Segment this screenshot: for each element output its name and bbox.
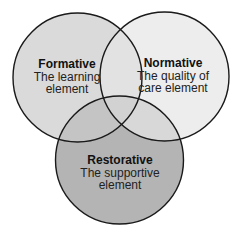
restorative-line2: element <box>99 178 142 192</box>
venn-diagram: Formative The learning element Normative… <box>0 0 246 237</box>
restorative-title: Restorative <box>87 153 153 167</box>
normative-title: Normative <box>144 56 203 70</box>
formative-title: Formative <box>38 57 96 71</box>
formative-line2: element <box>46 82 89 96</box>
normative-line2: care element <box>138 81 208 95</box>
